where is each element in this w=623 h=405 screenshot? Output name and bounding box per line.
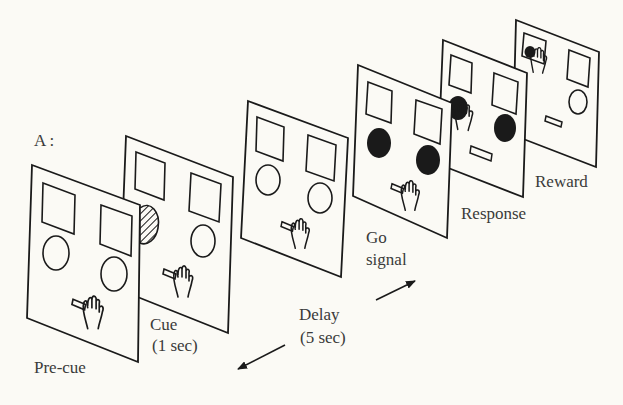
label-delay-duration: (5 sec) bbox=[300, 328, 346, 347]
arrow-back-icon bbox=[238, 345, 285, 369]
go-right-circle-filled bbox=[416, 145, 440, 175]
task-sequence-diagram: A : Pre-cue Cue (1 sec) Delay (5 sec) Go… bbox=[0, 0, 623, 405]
label-delay: Delay bbox=[299, 305, 340, 324]
label-pre-cue: Pre-cue bbox=[34, 358, 86, 377]
go-left-circle-filled bbox=[367, 128, 391, 158]
label-reward: Reward bbox=[535, 172, 588, 191]
label-cue: Cue bbox=[150, 315, 177, 334]
label-go: Go bbox=[366, 228, 387, 247]
label-go-signal: signal bbox=[366, 250, 407, 269]
arrow-forward-icon bbox=[376, 281, 415, 300]
response-right-circle-filled bbox=[494, 114, 516, 142]
figure-panel-label: A : bbox=[34, 131, 54, 150]
label-cue-duration: (1 sec) bbox=[152, 336, 198, 355]
panel-go-signal bbox=[353, 65, 452, 238]
label-response: Response bbox=[461, 204, 526, 223]
panel-delay bbox=[241, 101, 348, 277]
